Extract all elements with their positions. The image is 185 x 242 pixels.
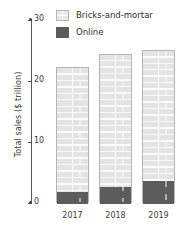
y-axis-title: Total sales ($ trillion): [14, 40, 23, 190]
x-axis-label-2018: 2018: [99, 212, 132, 220]
x-axis-label-2017: 2017: [56, 212, 89, 220]
legend-label-online: Online: [76, 28, 103, 37]
bar-segment-online-2019[interactable]: [143, 181, 174, 204]
y-axis-line: [31, 20, 32, 203]
chart-legend: Bricks-and-mortar Online: [56, 10, 153, 44]
bricks-pattern-swatch-icon: [56, 10, 69, 21]
legend-label-bricks-and-mortar: Bricks-and-mortar: [76, 11, 153, 20]
bar-segment-bricks-and-mortar-2019[interactable]: [143, 51, 174, 181]
y-tick-label-20: 20: [34, 76, 44, 84]
bar-group-2018: [99, 54, 132, 203]
bar-segment-online-2017[interactable]: [57, 192, 88, 204]
y-tick-mark-0: [28, 203, 32, 204]
bar-segment-bricks-and-mortar-2017[interactable]: [57, 68, 88, 192]
y-tick-label-0: 0: [34, 198, 39, 206]
bar-group-2019: [142, 50, 175, 203]
legend-item-online[interactable]: Online: [56, 27, 153, 38]
bar-segment-bricks-and-mortar-2018[interactable]: [100, 55, 131, 187]
legend-item-bricks-and-mortar[interactable]: Bricks-and-mortar: [56, 10, 153, 21]
bar-stack-2018[interactable]: [99, 54, 132, 203]
bar-stack-2019[interactable]: [142, 50, 175, 203]
bar-group-2017: [56, 67, 89, 203]
y-tick-mark-30: [28, 20, 32, 21]
bar-segment-online-2018[interactable]: [100, 187, 131, 204]
y-tick-label-10: 10: [34, 137, 44, 145]
y-tick-label-30: 30: [34, 15, 44, 23]
y-tick-mark-20: [28, 81, 32, 82]
stacked-bar-chart: Total sales ($ trillion) 30 20 10 0 Bric…: [0, 0, 185, 242]
y-tick-mark-10: [28, 142, 32, 143]
solid-dark-swatch-icon: [56, 27, 69, 38]
x-axis-label-2019: 2019: [142, 212, 175, 220]
bar-stack-2017[interactable]: [56, 67, 89, 203]
